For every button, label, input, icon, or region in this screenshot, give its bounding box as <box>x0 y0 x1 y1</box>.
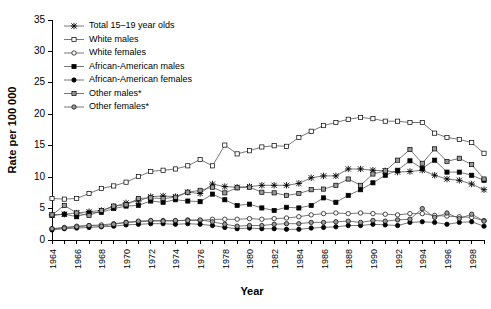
data-point <box>222 183 228 189</box>
data-point <box>482 151 486 155</box>
data-point <box>210 164 214 168</box>
data-point <box>173 195 177 199</box>
line-chart: 05101520253035Rate per 100 0001964196619… <box>0 0 491 309</box>
data-point <box>186 190 190 194</box>
legend-label-1: White males <box>89 34 139 44</box>
data-point <box>482 224 486 228</box>
data-point <box>334 183 338 187</box>
y-tick-label: 0 <box>39 234 45 245</box>
data-point <box>99 186 103 190</box>
y-tick-label: 20 <box>34 108 46 119</box>
data-point <box>408 120 412 124</box>
data-point <box>161 168 165 172</box>
legend-label-3: African-American males <box>89 61 185 71</box>
data-point <box>457 156 461 160</box>
data-point <box>259 182 265 188</box>
data-point <box>112 222 116 226</box>
legend-marker-2 <box>72 51 76 55</box>
data-point <box>346 223 350 227</box>
data-point <box>50 213 54 217</box>
data-point <box>74 225 78 229</box>
data-point <box>333 173 339 179</box>
y-tick-label: 35 <box>34 14 46 25</box>
data-point <box>198 200 202 204</box>
data-point <box>431 172 437 178</box>
data-point <box>309 226 313 230</box>
data-point <box>444 176 450 182</box>
data-point <box>358 211 362 215</box>
data-point <box>223 198 227 202</box>
data-point <box>420 211 424 215</box>
y-axis-title: Rate per 100 000 <box>6 87 18 174</box>
data-point <box>357 166 363 172</box>
data-point <box>309 188 313 192</box>
data-point <box>136 196 140 200</box>
x-tick-label: 1988 <box>344 249 354 269</box>
data-point <box>284 205 288 209</box>
data-point <box>334 120 338 124</box>
legend-marker-4 <box>72 78 76 82</box>
data-point <box>383 173 387 177</box>
x-tick-label: 1992 <box>394 249 404 269</box>
data-point <box>235 152 239 156</box>
data-point <box>470 173 474 177</box>
data-point <box>469 212 473 216</box>
data-point <box>396 168 400 172</box>
data-point <box>309 129 313 133</box>
data-point <box>309 213 313 217</box>
y-tick-label: 25 <box>34 76 46 87</box>
series-line-3 <box>52 160 484 217</box>
data-point <box>396 119 400 123</box>
data-point <box>198 157 202 161</box>
data-point <box>432 215 436 219</box>
data-point <box>445 222 449 226</box>
data-point <box>223 222 227 226</box>
data-point <box>210 192 214 196</box>
data-point <box>433 131 437 135</box>
data-point <box>272 226 276 230</box>
data-point <box>161 196 165 200</box>
data-point <box>284 227 288 231</box>
data-point <box>334 200 338 204</box>
data-point <box>408 217 412 221</box>
data-point <box>358 188 362 192</box>
data-point <box>407 168 413 174</box>
x-tick-label: 1982 <box>270 249 280 269</box>
legend-label-6: Other females* <box>89 101 150 111</box>
data-point <box>87 213 91 217</box>
data-point <box>321 211 325 215</box>
data-point <box>235 217 239 221</box>
data-point <box>470 140 474 144</box>
data-point <box>457 137 461 141</box>
data-point <box>284 221 288 225</box>
legend-marker-6 <box>72 105 76 109</box>
data-point <box>297 221 301 225</box>
data-point <box>346 211 350 215</box>
data-point <box>358 183 362 187</box>
data-point <box>271 182 277 188</box>
x-tick-label: 1980 <box>245 249 255 269</box>
data-point <box>445 135 449 139</box>
x-tick-label: 1994 <box>418 249 428 269</box>
data-point <box>408 211 412 215</box>
data-point <box>334 225 338 229</box>
data-point <box>112 184 116 188</box>
data-point <box>149 196 153 200</box>
legend-marker-1 <box>72 37 76 41</box>
data-point <box>321 124 325 128</box>
data-point <box>420 120 424 124</box>
x-tick-label: 1978 <box>221 249 231 269</box>
data-point <box>260 217 264 221</box>
x-tick-label: 1984 <box>295 249 305 269</box>
data-point <box>395 213 399 217</box>
x-tick-label: 1964 <box>48 249 58 269</box>
data-point <box>149 169 153 173</box>
data-point <box>136 203 140 207</box>
data-point <box>321 196 325 200</box>
data-point <box>308 175 314 181</box>
data-point <box>371 218 375 222</box>
data-point <box>247 223 251 227</box>
data-point <box>309 203 313 207</box>
data-point <box>445 211 449 215</box>
data-point <box>383 212 387 216</box>
